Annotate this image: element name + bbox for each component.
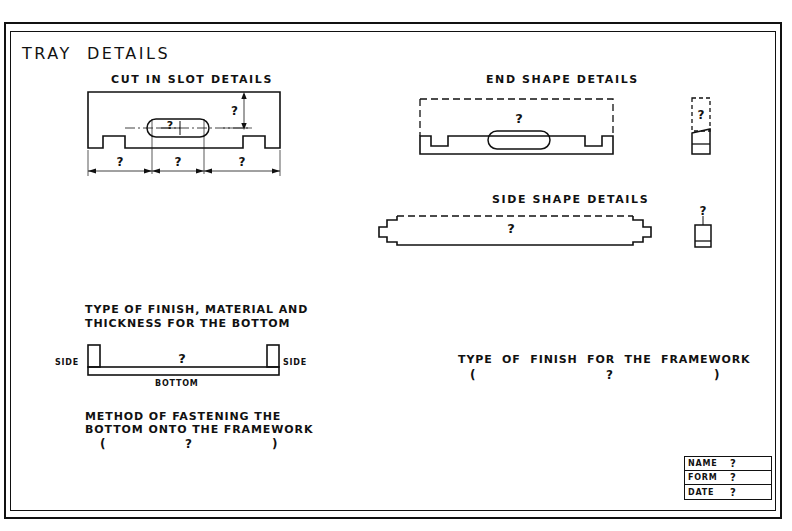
side-shape-outline bbox=[379, 216, 651, 245]
heading-fastening-line1: METHOD OF FASTENING THE bbox=[85, 410, 281, 423]
framework-close-paren: ) bbox=[714, 368, 719, 382]
dim-arrow-1-left bbox=[88, 169, 96, 174]
side-shape-drawing: ? bbox=[375, 211, 655, 251]
dim-label-right: ? bbox=[239, 155, 246, 169]
title-block-row-form[interactable]: FORM ? bbox=[685, 471, 771, 485]
heading-fastening-line2: BOTTOM ONTO THE FRAMEWORK bbox=[85, 423, 313, 436]
label-side-left: SIDE bbox=[55, 358, 79, 367]
heading-cut-in-slot: CUT IN SLOT DETAILS bbox=[111, 73, 273, 86]
slot-profile-outline bbox=[88, 92, 280, 148]
dim-arrow-2-right bbox=[196, 169, 204, 174]
cut-in-slot-drawing: ? ? ? ? ? bbox=[80, 88, 305, 193]
vertical-dim-label: ? bbox=[231, 104, 238, 118]
end-shape-drawing: ? bbox=[415, 96, 630, 161]
title-block-key-form: FORM bbox=[685, 473, 730, 482]
end-shape-slot bbox=[488, 131, 550, 149]
fastening-close-paren: ) bbox=[272, 437, 277, 451]
bottom-right-upright bbox=[267, 345, 279, 367]
vertical-dim-arrow-top bbox=[241, 92, 246, 99]
fastening-open-paren: ( bbox=[100, 437, 105, 451]
side-shape-label: ? bbox=[507, 221, 515, 236]
framework-answer[interactable]: ? bbox=[606, 368, 613, 382]
bottom-left-upright bbox=[88, 345, 100, 367]
heading-bottom-finish-line2: THICKNESS FOR THE BOTTOM bbox=[85, 317, 290, 330]
page-title: TRAY DETAILS bbox=[22, 44, 170, 63]
title-block: NAME ? FORM ? DATE ? bbox=[684, 456, 772, 500]
end-edge-solid-body bbox=[692, 129, 710, 154]
bottom-panel bbox=[88, 367, 279, 375]
label-bottom: BOTTOM bbox=[155, 379, 199, 388]
title-block-row-date[interactable]: DATE ? bbox=[685, 485, 771, 499]
drawing-sheet: TRAY DETAILS CUT IN SLOT DETAILS ? ? bbox=[0, 0, 792, 531]
bottom-center-label: ? bbox=[178, 351, 186, 366]
heading-side-shape: SIDE SHAPE DETAILS bbox=[492, 193, 649, 206]
end-shape-label: ? bbox=[515, 111, 523, 126]
end-shape-edge-view: ? bbox=[688, 96, 718, 158]
heading-end-shape: END SHAPE DETAILS bbox=[486, 73, 639, 86]
fastening-answer[interactable]: ? bbox=[185, 437, 192, 451]
heading-bottom-finish-line1: TYPE OF FINISH, MATERIAL AND bbox=[85, 303, 308, 316]
side-edge-label: ? bbox=[700, 204, 707, 218]
side-shape-edge-view: ? bbox=[690, 205, 718, 253]
title-block-key-name: NAME bbox=[685, 459, 730, 468]
title-block-key-date: DATE bbox=[685, 488, 730, 497]
title-block-value-name[interactable]: ? bbox=[730, 458, 736, 469]
dim-label-left: ? bbox=[117, 155, 124, 169]
side-edge-body bbox=[695, 225, 711, 247]
title-block-value-form[interactable]: ? bbox=[730, 472, 736, 483]
end-edge-label: ? bbox=[698, 108, 705, 122]
slot-inner-dim-label: ? bbox=[167, 119, 173, 132]
dim-arrow-3-right bbox=[272, 169, 280, 174]
framework-open-paren: ( bbox=[470, 368, 475, 382]
dim-arrow-1-right bbox=[144, 169, 152, 174]
title-block-value-date[interactable]: ? bbox=[730, 487, 736, 498]
dim-label-center: ? bbox=[175, 155, 182, 169]
bottom-section-drawing: ? bbox=[86, 343, 281, 383]
label-side-right: SIDE bbox=[283, 358, 307, 367]
dim-arrow-2-left bbox=[152, 169, 160, 174]
vertical-dim-arrow-bottom bbox=[241, 123, 246, 130]
end-shape-outline bbox=[420, 136, 613, 154]
heading-framework-finish: TYPE OF FINISH FOR THE FRAMEWORK bbox=[458, 353, 751, 366]
title-block-row-name[interactable]: NAME ? bbox=[685, 457, 771, 471]
dim-arrow-3-left bbox=[204, 169, 212, 174]
